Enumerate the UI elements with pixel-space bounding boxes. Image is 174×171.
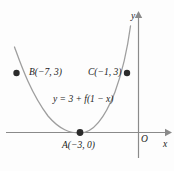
point-marker-a [77,129,84,136]
x-axis-label: x [163,140,167,150]
function-curve [15,26,131,133]
x-axis-arrow [165,129,172,136]
origin-label: O [141,135,148,145]
point-marker-b [13,70,19,76]
graph-figure: B(−7, 3) C(−1, 3) y = 3 + f(1 − x) A(−3,… [0,0,174,171]
point-marker-c [124,70,130,76]
point-label-a: A(−3, 0) [62,141,95,151]
y-axis-arrow [135,11,142,18]
point-label-c: C(−1, 3) [88,68,121,78]
y-axis-label: y [131,12,135,22]
point-label-b: B(−7, 3) [29,68,62,78]
curve-equation-label: y = 3 + f(1 − x) [53,95,113,105]
